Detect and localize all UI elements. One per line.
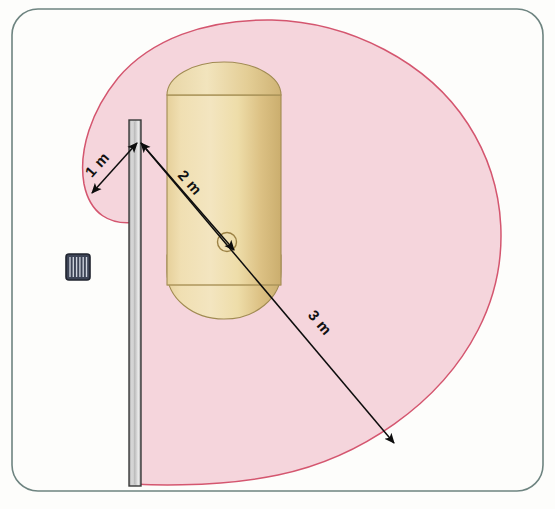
tank-body bbox=[167, 95, 281, 285]
cylindrical-tank bbox=[167, 62, 281, 319]
wall-body bbox=[129, 120, 141, 486]
diagram-svg: 1 m 2 m 3 m bbox=[0, 0, 555, 509]
grating-symbol bbox=[66, 254, 90, 280]
diagram-canvas: 1 m 2 m 3 m bbox=[0, 0, 555, 509]
wall-barrier bbox=[129, 120, 141, 486]
